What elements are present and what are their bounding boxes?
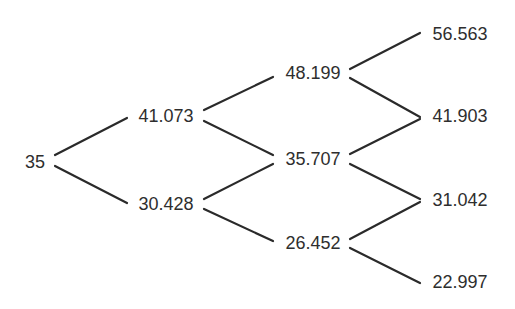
tree-edge-n2_2-n3_3 [350, 248, 420, 283]
tree-node-n3_0: 56.563 [432, 24, 487, 44]
tree-node-n3_3: 22.997 [432, 272, 487, 292]
tree-edge-n2_0-n3_1 [350, 78, 420, 117]
tree-node-n3_1: 41.903 [432, 106, 487, 126]
tree-edge-n2_2-n3_2 [350, 202, 420, 239]
tree-node-n1_0: 41.073 [138, 106, 193, 126]
tree-node-n1_1: 30.428 [138, 194, 193, 214]
tree-edge-n0_0-n1_0 [55, 118, 127, 155]
tree-node-n0_0: 35 [25, 152, 45, 172]
tree-edge-n2_1-n3_2 [350, 164, 420, 199]
tree-node-n2_0: 48.199 [285, 63, 340, 83]
binomial-tree-edges [0, 0, 515, 309]
tree-node-n2_1: 35.707 [285, 149, 340, 169]
tree-edge-n1_0-n2_0 [204, 77, 273, 110]
tree-edge-n1_1-n2_2 [204, 209, 273, 241]
tree-edge-n1_1-n2_1 [204, 164, 273, 199]
tree-edge-n1_0-n2_1 [204, 121, 273, 155]
tree-edge-n0_0-n1_1 [55, 166, 127, 203]
tree-node-n2_2: 26.452 [285, 233, 340, 253]
tree-edge-n2_0-n3_0 [350, 33, 420, 69]
tree-edge-n2_1-n3_1 [350, 119, 420, 154]
tree-node-n3_2: 31.042 [432, 190, 487, 210]
